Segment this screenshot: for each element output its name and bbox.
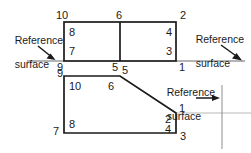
- annotation-left-line2: surface: [15, 58, 49, 70]
- bottom-label-7: 7: [53, 126, 59, 137]
- top-label-4: 4: [166, 27, 172, 38]
- annotation-top-right-reference-surface: Reference surface: [184, 21, 248, 81]
- bottom-label-9: 9: [57, 68, 63, 79]
- top-label-1: 1: [179, 62, 185, 73]
- annotation-left-line1: Reference: [15, 34, 63, 46]
- bottom-label-6: 6: [108, 81, 114, 92]
- top-label-3: 3: [166, 46, 172, 57]
- bottom-label-1: 1: [179, 103, 185, 114]
- bottom-label-10: 10: [69, 81, 81, 92]
- top-label-7: 7: [69, 46, 75, 57]
- annotation-top-right-line1: Reference: [196, 33, 244, 45]
- top-rectangle-shape: [64, 22, 176, 61]
- top-label-2: 2: [180, 10, 186, 21]
- annotation-left-reference-surface: Reference surface: [3, 22, 63, 82]
- bottom-label-3: 3: [180, 131, 186, 142]
- bottom-label-8: 8: [69, 119, 75, 130]
- annotation-bottom-right-line1: Reference: [167, 86, 215, 98]
- bottom-label-4: 4: [165, 124, 171, 135]
- top-label-8: 8: [69, 27, 75, 38]
- reference-surface-diagram: Reference surface Reference surface Refe…: [0, 0, 251, 153]
- bottom-label-5: 5: [122, 65, 128, 76]
- top-label-5: 5: [112, 62, 118, 73]
- top-label-10: 10: [56, 10, 68, 21]
- top-label-6: 6: [116, 10, 122, 21]
- annotation-top-right-line2: surface: [196, 57, 230, 69]
